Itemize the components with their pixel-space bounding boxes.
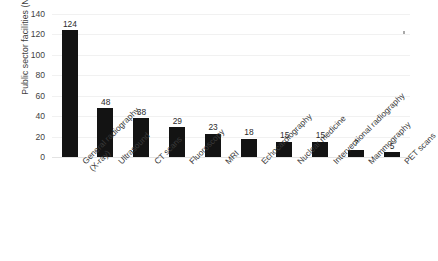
bar-value-label: 18 <box>232 128 267 136</box>
bar <box>62 30 78 157</box>
y-tick-label-100: 100 <box>5 51 45 60</box>
y-tick-label-80: 80 <box>5 71 45 80</box>
x-category-label: Mammography <box>366 159 373 166</box>
y-tick-label-140: 140 <box>5 10 45 19</box>
image-speck-artifact <box>403 31 405 34</box>
x-category-label: PET scans <box>402 159 409 166</box>
y-tick-label-20: 20 <box>5 132 45 141</box>
bar-value-label: 124 <box>53 20 88 28</box>
bar-group: 124 <box>53 14 88 157</box>
bar-group: 18 <box>232 14 267 157</box>
bar-value-label: 29 <box>160 117 195 125</box>
x-category-label: Fluoroscopy <box>187 159 194 166</box>
bar-value-label: 48 <box>88 98 123 106</box>
x-category-label: Interventional radiography <box>331 159 338 166</box>
y-tick-label-40: 40 <box>5 112 45 121</box>
x-category-label: CT scans <box>152 159 159 166</box>
x-axis-category-labels: General radiography(X-ray)UltrasoundCT s… <box>52 159 410 259</box>
x-category-label: General radiography(X-ray) <box>80 159 94 173</box>
x-category-label: Nuclear medicine <box>295 159 302 166</box>
bar-value-label: 23 <box>196 123 231 131</box>
y-tick-label-60: 60 <box>5 91 45 100</box>
x-category-label: Ultrasound <box>116 159 123 166</box>
x-category-label: Echocardiography <box>259 159 266 166</box>
y-tick-label-120: 120 <box>5 30 45 39</box>
x-category-label-line: (X-ray) <box>87 166 94 173</box>
y-tick-label-0: 0 <box>5 153 45 162</box>
x-category-label: MRI <box>223 159 230 166</box>
y-axis-title: Public sector facilities (N) <box>20 0 30 125</box>
bar <box>241 139 257 157</box>
